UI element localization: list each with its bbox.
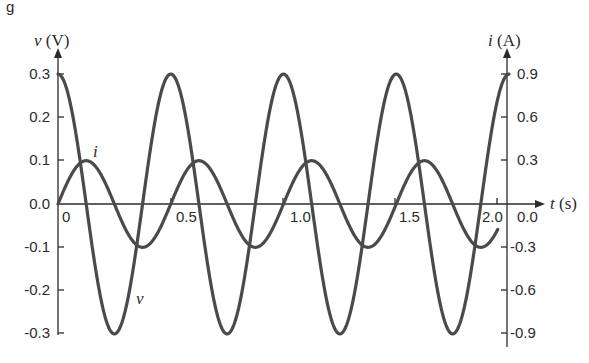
svg-text:-0.3: -0.3 (24, 324, 50, 341)
svg-text:0.1: 0.1 (29, 151, 50, 168)
left-tick-labels: 0.3 0.2 0.1 0.0 -0.1 -0.2 -0.3 (24, 65, 50, 341)
current-series-label: i (93, 142, 98, 161)
right-tick-labels: 0.9 0.6 0.3 0.0 -0.3 -0.6 -0.9 (510, 65, 538, 341)
x-ticks (171, 198, 497, 204)
svg-text:-0.6: -0.6 (510, 281, 536, 298)
voltage-series-label: v (136, 289, 144, 308)
svg-text:-0.2: -0.2 (24, 281, 50, 298)
svg-text:0: 0 (62, 208, 70, 225)
svg-text:0.2: 0.2 (29, 108, 50, 125)
svg-text:0.0: 0.0 (517, 208, 538, 225)
left-axis-title: v (V) (34, 31, 69, 50)
svg-text:-0.1: -0.1 (24, 238, 50, 255)
voltage-current-chart: g v (V) i (A) t (s) 0.3 0.2 0.1 0.0 -0.1… (0, 0, 589, 363)
svg-text:0.9: 0.9 (517, 65, 538, 82)
svg-text:1.5: 1.5 (399, 208, 420, 225)
svg-text:0.6: 0.6 (517, 108, 538, 125)
svg-text:0.3: 0.3 (517, 151, 538, 168)
x-axis-title: t (s) (550, 194, 577, 213)
svg-text:0.3: 0.3 (29, 65, 50, 82)
svg-text:0.5: 0.5 (176, 208, 197, 225)
right-axis-title: i (A) (488, 31, 521, 50)
x-axis-arrow-icon (535, 200, 545, 208)
svg-text:-0.3: -0.3 (510, 238, 536, 255)
svg-text:0.0: 0.0 (29, 195, 50, 212)
svg-text:-0.9: -0.9 (510, 324, 536, 341)
svg-text:1.0: 1.0 (290, 208, 311, 225)
svg-text:2.0: 2.0 (482, 208, 503, 225)
partial-caption: g (6, 0, 14, 15)
